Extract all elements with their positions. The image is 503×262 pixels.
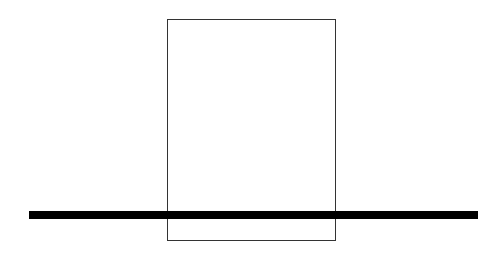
diagram-canvas: [0, 0, 503, 262]
horizontal-bar-line: [29, 211, 478, 219]
rectangle-shape: [167, 19, 336, 241]
